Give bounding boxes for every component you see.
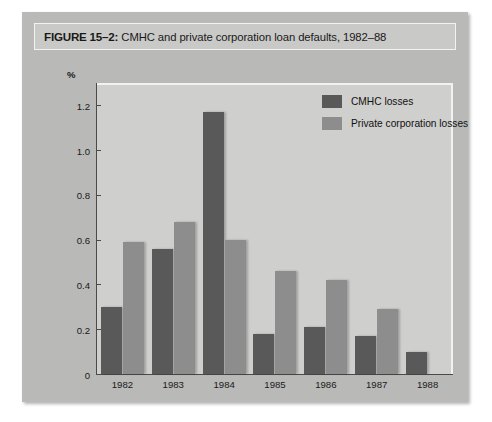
bar-1985-cmhc <box>253 334 274 374</box>
bar-1986-cmhc <box>304 327 325 374</box>
x-axis-label-1985: 1985 <box>264 379 285 390</box>
y-axis-tick-label: 0.4 <box>77 279 90 290</box>
chart-plot-frame: % 00.20.40.60.81.01.2 198219831984198519… <box>67 69 456 389</box>
figure-title-box: FIGURE 15–2: CMHC and private corporatio… <box>34 23 456 50</box>
bar-1987-private <box>377 309 398 374</box>
x-axis-label-1987: 1987 <box>366 379 387 390</box>
figure-title: FIGURE 15–2: CMHC and private corporatio… <box>44 30 386 43</box>
chart-legend: CMHC lossesPrivate corporation losses <box>322 95 468 139</box>
legend-label: CMHC losses <box>351 96 413 107</box>
y-axis-tick-label: 0 <box>85 369 90 380</box>
y-axis-tick-label: 1.2 <box>77 100 90 111</box>
x-axis-line <box>96 374 453 375</box>
bar-group <box>199 83 250 374</box>
legend-swatch-icon <box>322 95 342 108</box>
bar-1986-private <box>326 280 347 374</box>
bar-1984-cmhc <box>203 112 224 374</box>
y-axis-tick: 0 <box>96 374 101 375</box>
y-axis-unit-label: % <box>67 69 75 80</box>
bar-1984-private <box>225 240 246 374</box>
figure-panel: FIGURE 15–2: CMHC and private corporatio… <box>22 12 468 402</box>
y-axis-tick-label: 0.8 <box>77 190 90 201</box>
x-axis-label-1983: 1983 <box>163 379 184 390</box>
bar-1983-cmhc <box>152 249 173 374</box>
y-axis-tick-label: 0.6 <box>77 235 90 246</box>
bar-group <box>97 83 148 374</box>
bar-1983-private <box>174 222 195 374</box>
y-axis-tick-label: 1.0 <box>77 145 90 156</box>
bar-1987-cmhc <box>355 336 376 374</box>
figure-title-text: CMHC and private corporation loan defaul… <box>118 31 386 43</box>
bar-1982-private <box>123 242 144 374</box>
y-axis-tick-label: 0.2 <box>77 324 90 335</box>
bar-1988-cmhc <box>406 352 427 374</box>
bar-group <box>148 83 199 374</box>
figure-number-label: FIGURE 15–2: <box>44 30 118 43</box>
x-axis-label-1984: 1984 <box>213 379 234 390</box>
legend-swatch-icon <box>322 117 342 130</box>
bar-group <box>250 83 301 374</box>
legend-item: CMHC losses <box>322 95 468 108</box>
bar-1985-private <box>275 271 296 374</box>
legend-item: Private corporation losses <box>322 117 468 130</box>
x-axis-label-1986: 1986 <box>315 379 336 390</box>
x-axis-label-1988: 1988 <box>417 379 438 390</box>
bar-1982-cmhc <box>101 307 122 374</box>
x-axis-label-1982: 1982 <box>112 379 133 390</box>
legend-label: Private corporation losses <box>351 118 468 129</box>
